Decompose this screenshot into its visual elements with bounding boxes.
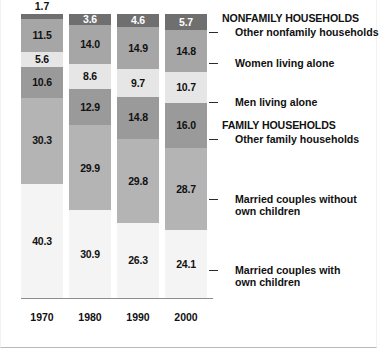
bar-segment[interactable]: 40.3	[21, 184, 63, 298]
bar-segment[interactable]: 14.8	[165, 30, 207, 72]
bar-segment-value: 14.9	[128, 43, 148, 54]
bar-segment[interactable]: 16.0	[165, 103, 207, 148]
bar-segment-value: 14.8	[128, 112, 148, 123]
bar-segment-value-outside: 1.7	[21, 0, 63, 12]
bar-segment[interactable]: 14.9	[117, 27, 159, 69]
bar-segment-value: 29.9	[80, 163, 100, 174]
legend-group-header: NONFAMILY HOUSEHOLDS	[222, 12, 359, 24]
legend-label: Married couples with	[235, 264, 340, 276]
legend-leader-line	[209, 270, 218, 271]
stacked-bar-plot: 1.711.55.610.630.340.33.614.08.612.929.9…	[21, 14, 213, 311]
legend-item: own children	[222, 276, 300, 288]
bar-segment[interactable]: 29.8	[117, 139, 159, 224]
legend-item: Men living alone	[222, 96, 317, 108]
bar-segment-value: 14.0	[80, 39, 100, 50]
bar-segment-value: 16.0	[176, 120, 196, 131]
bar-segment[interactable]: 12.9	[69, 89, 111, 126]
legend-item: own children	[222, 205, 300, 217]
legend-label: Other nonfamily households	[235, 26, 379, 38]
bar-segment[interactable]: 3.6	[69, 14, 111, 24]
legend-label: Men living alone	[235, 96, 317, 108]
legend-label: NONFAMILY HOUSEHOLDS	[222, 12, 359, 24]
bar-segment-value: 9.7	[131, 78, 145, 89]
bar-segment-value: 24.1	[176, 259, 196, 270]
bar-segment-value: 3.6	[83, 14, 97, 25]
bar-segment-value: 26.3	[128, 255, 148, 266]
bar-segment-value: 4.6	[131, 15, 145, 26]
bar-segment[interactable]: 5.7	[165, 14, 207, 30]
bar-segment[interactable]: 11.5	[21, 19, 63, 52]
legend-label: own children	[235, 276, 300, 288]
bar-segment-value: 5.7	[179, 17, 193, 28]
bar-segment-value: 30.9	[80, 249, 100, 260]
bar-segment-value: 11.5	[32, 30, 51, 41]
legend-item: Married couples without	[222, 193, 357, 205]
bar-segment[interactable]: 30.3	[21, 98, 63, 184]
x-tick-1980: 1980	[69, 311, 111, 323]
bar-segment[interactable]: 9.7	[117, 69, 159, 97]
legend-label: FAMILY HOUSEHOLDS	[222, 119, 336, 131]
bar-segment[interactable]: 14.8	[117, 97, 159, 139]
legend-label: Other family households	[235, 133, 359, 145]
legend-group-header: FAMILY HOUSEHOLDS	[222, 119, 336, 131]
legend-label: Married couples without	[235, 193, 357, 205]
bar-segment-value: 5.6	[35, 54, 49, 65]
legend-item: Women living alone	[222, 57, 334, 69]
bar-segment[interactable]: 5.6	[21, 52, 63, 68]
bar-segment[interactable]: 26.3	[117, 223, 159, 298]
chart-legend: NONFAMILY HOUSEHOLDSOther nonfamily hous…	[222, 12, 374, 312]
legend-leader-line	[209, 63, 218, 64]
bar-segment-value: 28.7	[176, 184, 196, 195]
bar-segment[interactable]: 24.1	[165, 230, 207, 298]
legend-leader-line	[209, 102, 218, 103]
legend-leader-line	[209, 199, 218, 200]
legend-item: Married couples with	[222, 264, 340, 276]
bar-segment[interactable]: 8.6	[69, 64, 111, 88]
bar-segment-value: 14.8	[176, 46, 196, 57]
legend-item: Other family households	[222, 133, 359, 145]
bar-column-1990[interactable]: 4.614.99.714.829.826.3	[117, 14, 159, 298]
legend-label: own children	[235, 205, 300, 217]
bar-segment[interactable]: 28.7	[165, 148, 207, 230]
x-axis-line	[21, 298, 213, 299]
bar-segment[interactable]: 29.9	[69, 125, 111, 210]
bar-segment[interactable]: 4.6	[117, 14, 159, 27]
bar-segment[interactable]: 30.9	[69, 210, 111, 298]
bar-segment[interactable]: 14.0	[69, 25, 111, 65]
legend-label: Women living alone	[235, 57, 334, 69]
legend-item: Other nonfamily households	[222, 26, 379, 38]
bar-segment-value: 8.6	[83, 71, 97, 82]
bar-segment-value: 29.8	[128, 176, 148, 187]
bar-segment-value: 10.7	[176, 82, 196, 93]
legend-leader-line	[209, 139, 218, 140]
bar-column-1970[interactable]: 1.711.55.610.630.340.3	[21, 14, 63, 298]
bar-segment-value: 12.9	[80, 102, 100, 113]
bar-column-1980[interactable]: 3.614.08.612.929.930.9	[69, 14, 111, 298]
bar-segment[interactable]: 10.6	[21, 67, 63, 97]
legend-leader-line	[209, 32, 218, 33]
x-tick-2000: 2000	[165, 311, 207, 323]
bar-segment[interactable]: 10.7	[165, 72, 207, 102]
bar-segment-value: 40.3	[32, 236, 52, 247]
bar-segment-value: 10.6	[32, 77, 52, 88]
bar-column-2000[interactable]: 5.714.810.716.028.724.1	[165, 14, 207, 298]
x-tick-1990: 1990	[117, 311, 159, 323]
bar-segment-value: 30.3	[32, 135, 52, 146]
x-tick-1970: 1970	[21, 311, 63, 323]
